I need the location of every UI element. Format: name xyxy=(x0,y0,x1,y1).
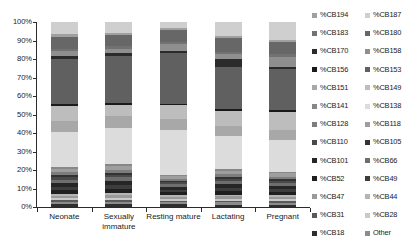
bar-segment[interactable] xyxy=(51,177,78,180)
bar-segment[interactable] xyxy=(215,109,242,111)
bar-segment[interactable] xyxy=(105,193,132,195)
bar-segment[interactable] xyxy=(160,130,187,174)
bar-segment[interactable] xyxy=(160,181,187,182)
bar-segment[interactable] xyxy=(105,204,132,207)
bar-segment[interactable] xyxy=(269,57,296,67)
bar-segment[interactable] xyxy=(160,44,187,50)
bar-column[interactable] xyxy=(51,22,78,207)
bar-segment[interactable] xyxy=(269,186,296,190)
bar-segment[interactable] xyxy=(160,182,187,184)
bar-segment[interactable] xyxy=(160,190,187,192)
bar-segment[interactable] xyxy=(215,54,242,59)
legend-item[interactable]: %CB31 xyxy=(312,206,364,224)
legend-item[interactable]: %CB138 xyxy=(365,97,417,115)
bar-segment[interactable] xyxy=(215,205,242,207)
bar-segment[interactable] xyxy=(51,121,78,132)
bar-segment[interactable] xyxy=(105,103,132,105)
bar-column[interactable] xyxy=(105,22,132,207)
bar-segment[interactable] xyxy=(51,37,78,49)
bar-segment[interactable] xyxy=(105,166,132,170)
bar-segment[interactable] xyxy=(215,195,242,197)
legend-item[interactable]: %CB110 xyxy=(312,133,364,151)
bar-segment[interactable] xyxy=(51,104,78,106)
bar-segment[interactable] xyxy=(215,188,242,191)
bar-segment[interactable] xyxy=(269,181,296,183)
bar-segment[interactable] xyxy=(269,22,296,40)
bar-segment[interactable] xyxy=(269,42,296,54)
bar-segment[interactable] xyxy=(160,51,187,53)
legend-item[interactable]: %CB47 xyxy=(312,188,364,206)
bar-segment[interactable] xyxy=(51,204,78,207)
bar-segment[interactable] xyxy=(51,196,78,198)
bar-segment[interactable] xyxy=(105,195,132,198)
bar-segment[interactable] xyxy=(215,191,242,195)
bar-segment[interactable] xyxy=(105,202,132,204)
bar-segment[interactable] xyxy=(51,194,78,196)
bar-segment[interactable] xyxy=(51,106,78,121)
bar-segment[interactable] xyxy=(215,171,242,174)
bar-segment[interactable] xyxy=(160,179,187,181)
legend-item[interactable]: %CB156 xyxy=(312,61,364,79)
legend-item[interactable]: %CB158 xyxy=(365,42,417,60)
legend-item[interactable]: %CB151 xyxy=(312,79,364,97)
bar-segment[interactable] xyxy=(269,173,296,176)
bar-segment[interactable] xyxy=(215,38,242,52)
bar-segment[interactable] xyxy=(51,202,78,204)
bar-segment[interactable] xyxy=(269,197,296,199)
bar-segment[interactable] xyxy=(160,30,187,42)
bar-segment[interactable] xyxy=(105,173,132,175)
bar-segment[interactable] xyxy=(215,202,242,204)
bar-segment[interactable] xyxy=(105,128,132,164)
bar-segment[interactable] xyxy=(269,177,296,179)
bar-segment[interactable] xyxy=(160,105,187,119)
bar-segment[interactable] xyxy=(51,183,78,187)
legend-item[interactable]: %CB105 xyxy=(365,133,417,151)
bar-segment[interactable] xyxy=(269,195,296,197)
bar-segment[interactable] xyxy=(215,111,242,127)
bar-segment[interactable] xyxy=(51,200,78,202)
bar-segment[interactable] xyxy=(51,59,78,105)
bar-segment[interactable] xyxy=(105,164,132,166)
bar-segment[interactable] xyxy=(160,201,187,202)
bar-segment[interactable] xyxy=(51,22,78,34)
bar-segment[interactable] xyxy=(105,53,132,55)
legend-item[interactable]: %CB153 xyxy=(365,61,417,79)
bar-segment[interactable] xyxy=(269,69,296,110)
bar-segment[interactable] xyxy=(160,22,187,28)
bar-column[interactable] xyxy=(269,22,296,207)
bar-segment[interactable] xyxy=(269,67,296,69)
legend-item[interactable]: %CB28 xyxy=(365,206,417,224)
bar-segment[interactable] xyxy=(215,196,242,198)
bar-segment[interactable] xyxy=(105,181,132,185)
bar-column[interactable] xyxy=(215,22,242,207)
legend-item[interactable]: %CB180 xyxy=(365,24,417,42)
legend-item[interactable]: %CB194 xyxy=(312,6,364,24)
bar-segment[interactable] xyxy=(105,170,132,173)
bar-segment[interactable] xyxy=(160,28,187,30)
legend-item[interactable]: %CB183 xyxy=(312,24,364,42)
bar-segment[interactable] xyxy=(51,34,78,36)
bar-segment[interactable] xyxy=(160,104,187,106)
bar-segment[interactable] xyxy=(51,190,78,194)
bar-segment[interactable] xyxy=(215,184,242,188)
bar-segment[interactable] xyxy=(160,187,187,190)
bar-segment[interactable] xyxy=(105,116,132,128)
bar-segment[interactable] xyxy=(160,204,187,207)
legend-item[interactable]: %CB52 xyxy=(312,170,364,188)
bar-segment[interactable] xyxy=(51,132,78,167)
bar-segment[interactable] xyxy=(215,67,242,109)
bar-segment[interactable] xyxy=(215,199,242,201)
bar-segment[interactable] xyxy=(105,105,132,116)
bar-segment[interactable] xyxy=(105,56,132,103)
legend-item[interactable]: Other xyxy=(365,224,417,242)
bar-segment[interactable] xyxy=(160,192,187,195)
legend-item[interactable]: %CB101 xyxy=(312,152,364,170)
bar-segment[interactable] xyxy=(215,36,242,38)
bar-segment[interactable] xyxy=(215,181,242,184)
bar-segment[interactable] xyxy=(105,185,132,188)
bar-segment[interactable] xyxy=(269,199,296,201)
legend-item[interactable]: %CB66 xyxy=(365,152,417,170)
bar-segment[interactable] xyxy=(51,49,78,51)
bar-segment[interactable] xyxy=(269,112,296,130)
bar-segment[interactable] xyxy=(269,192,296,196)
